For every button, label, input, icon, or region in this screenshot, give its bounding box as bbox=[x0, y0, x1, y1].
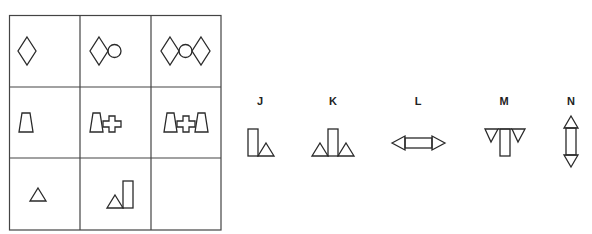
option-k-figure[interactable] bbox=[312, 129, 354, 156]
option-n-label: N bbox=[567, 95, 575, 107]
cell-r2c3 bbox=[164, 113, 208, 132]
option-m-figure[interactable] bbox=[485, 129, 525, 156]
cell-r1c3 bbox=[161, 37, 210, 65]
rectangle-shape bbox=[123, 181, 133, 208]
triangle-shape bbox=[30, 188, 46, 201]
trapezoid-shape bbox=[90, 113, 103, 132]
trapezoid-shape bbox=[195, 113, 208, 132]
cross-shape bbox=[103, 116, 121, 132]
option-l-figure[interactable] bbox=[392, 136, 445, 150]
diamond-shape bbox=[161, 37, 179, 65]
option-l-label: L bbox=[415, 95, 422, 107]
puzzle-canvas bbox=[0, 0, 592, 234]
option-j-label: J bbox=[257, 95, 263, 107]
cell-r2c2 bbox=[90, 113, 121, 132]
cell-r3c2 bbox=[107, 181, 133, 208]
circle-shape bbox=[108, 45, 121, 58]
option-k-label: K bbox=[329, 95, 337, 107]
cell-r2c1 bbox=[19, 113, 33, 132]
option-j-figure[interactable] bbox=[248, 129, 274, 156]
option-m-label: M bbox=[499, 95, 508, 107]
matrix-grid bbox=[10, 16, 222, 231]
diamond-shape bbox=[192, 37, 210, 65]
circle-shape bbox=[179, 45, 192, 58]
trapezoid-shape bbox=[19, 113, 33, 132]
diamond-shape bbox=[90, 37, 108, 65]
cell-r3c1 bbox=[30, 188, 46, 201]
diamond-shape bbox=[18, 37, 36, 65]
cell-r1c2 bbox=[90, 37, 121, 65]
trapezoid-shape bbox=[164, 113, 177, 132]
cross-shape bbox=[177, 116, 195, 132]
triangle-shape bbox=[107, 195, 123, 208]
cell-r1c1 bbox=[18, 37, 36, 65]
option-n-figure[interactable] bbox=[564, 116, 578, 167]
